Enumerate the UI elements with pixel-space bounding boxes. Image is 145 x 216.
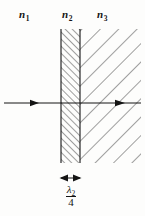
label-medium-n2-subscript: 2 bbox=[69, 14, 73, 23]
label-medium-n3: n3 bbox=[97, 9, 107, 20]
lambda-symbol: λ bbox=[67, 183, 72, 195]
thickness-fraction: λ2 4 bbox=[66, 184, 77, 208]
thickness-label: λ2 4 bbox=[50, 184, 92, 210]
label-medium-n1-symbol: n bbox=[19, 8, 25, 20]
thickness-dimension-arrow bbox=[60, 175, 82, 182]
label-medium-n2: n2 bbox=[62, 9, 72, 20]
film-region-hatching bbox=[61, 29, 80, 163]
ray-arrowhead-incident bbox=[30, 100, 39, 106]
optics-diagram: n1 n2 n3 λ2 4 bbox=[0, 0, 145, 216]
lambda-subscript: 2 bbox=[72, 189, 76, 198]
label-medium-n3-symbol: n bbox=[97, 8, 103, 20]
thickness-denominator: 4 bbox=[66, 197, 77, 208]
thickness-numerator: λ2 bbox=[66, 184, 77, 195]
label-medium-n1-subscript: 1 bbox=[26, 14, 30, 23]
label-medium-n2-symbol: n bbox=[62, 8, 68, 20]
substrate-region-hatching bbox=[80, 29, 141, 163]
label-medium-n1: n1 bbox=[19, 9, 29, 20]
label-medium-n3-subscript: 3 bbox=[104, 14, 108, 23]
